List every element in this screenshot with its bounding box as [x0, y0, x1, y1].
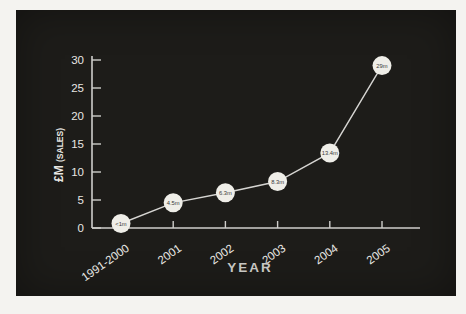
data-point-label: 13.4m	[322, 150, 338, 156]
y-tick-label: 30	[71, 54, 84, 66]
y-tick-label: 5	[78, 194, 84, 206]
sales-line-chart: 0510152025301991-20002001200220032004200…	[16, 10, 456, 296]
data-point-label: 4.5m	[167, 200, 180, 206]
data-line	[121, 66, 382, 224]
y-tick-label: 20	[71, 110, 84, 122]
chart-panel: 0510152025301991-20002001200220032004200…	[16, 10, 456, 296]
data-point-label: 6.3m	[219, 190, 232, 196]
x-tick-label: 2001	[155, 242, 183, 267]
x-tick-label: 2004	[312, 241, 340, 266]
x-tick-label: 1991-2000	[79, 242, 131, 283]
x-axis-title: YEAR	[227, 260, 273, 275]
scanned-page: 0510152025301991-20002001200220032004200…	[0, 0, 466, 314]
y-tick-label: 15	[71, 138, 84, 150]
y-tick-label: 0	[78, 222, 84, 234]
data-point-label: 29m	[376, 63, 387, 69]
y-axis-title: £M (SALES)	[52, 128, 66, 182]
y-tick-label: 25	[71, 82, 84, 94]
x-tick-label: 2005	[364, 242, 392, 267]
data-point-label: <1m	[115, 221, 127, 227]
data-point-label: 8.3m	[271, 179, 284, 185]
y-tick-label: 10	[71, 166, 84, 178]
